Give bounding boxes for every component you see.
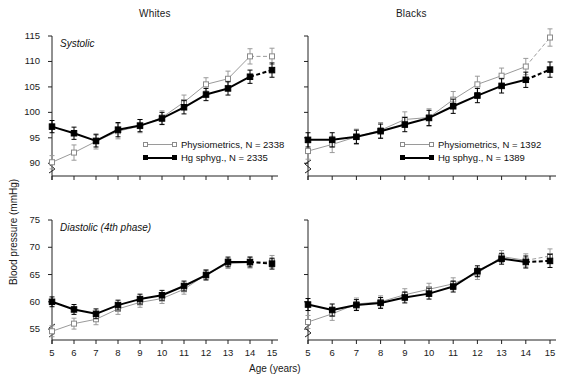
x-tick-label: 13 [220, 347, 236, 358]
data-point-filled-square [378, 300, 384, 306]
data-point-filled-square [159, 293, 165, 299]
x-tick-label: 11 [445, 347, 461, 358]
data-point-filled-square [475, 93, 481, 99]
data-point-filled-square [247, 259, 253, 265]
data-point-open-square [548, 35, 553, 40]
x-tick-label: 8 [373, 347, 389, 358]
data-point-filled-square [354, 302, 360, 308]
data-point-filled-square [269, 67, 275, 73]
data-point-filled-square [93, 138, 99, 144]
series-line-dashed [250, 70, 272, 77]
x-tick-label: 10 [154, 347, 170, 358]
data-point-filled-square [547, 67, 553, 73]
series-line-dashed [250, 262, 272, 264]
data-point-filled-square [181, 105, 187, 111]
data-point-filled-square [269, 261, 275, 267]
series-line-dashed [526, 70, 550, 80]
x-tick-label: 7 [348, 347, 364, 358]
data-point-filled-square [450, 104, 456, 110]
y-tick-label: 100 [10, 106, 40, 117]
data-point-filled-square [378, 128, 384, 134]
data-point-filled-square [305, 137, 311, 143]
x-tick-label: 12 [469, 347, 485, 358]
data-point-filled-square [115, 302, 121, 308]
x-tick-label: 13 [494, 347, 510, 358]
data-point-filled-square [137, 296, 143, 302]
x-tick-label: 9 [132, 347, 148, 358]
data-point-filled-square [402, 122, 408, 128]
data-point-filled-square [71, 130, 77, 136]
x-tick-label: 7 [88, 347, 104, 358]
data-point-open-square [248, 54, 253, 59]
data-point-open-square [204, 82, 209, 87]
data-point-open-square [72, 321, 77, 326]
data-point-filled-square [93, 311, 99, 317]
series-line-dashed [526, 261, 550, 262]
data-point-filled-square [247, 74, 253, 80]
y-tick-label: 105 [10, 81, 40, 92]
data-point-filled-square [329, 307, 335, 313]
data-point-filled-square [523, 77, 529, 83]
y-tick-label: 70 [10, 241, 40, 252]
data-point-open-square [72, 150, 77, 155]
data-point-open-square [50, 160, 55, 165]
y-tick-label: 110 [10, 55, 40, 66]
data-point-filled-square [426, 115, 432, 121]
data-point-filled-square [523, 259, 529, 265]
x-tick-label: 10 [421, 347, 437, 358]
series-line-dashed [526, 256, 550, 260]
x-tick-label: 6 [66, 347, 82, 358]
data-point-filled-square [329, 137, 335, 143]
y-tick-label: 115 [10, 30, 40, 41]
y-tick-label: 95 [10, 132, 40, 143]
x-tick-label: 14 [242, 347, 258, 358]
data-point-filled-square [354, 134, 360, 140]
data-point-filled-square [137, 123, 143, 129]
x-tick-label: 11 [176, 347, 192, 358]
data-point-filled-square [203, 92, 209, 98]
data-point-filled-square [547, 258, 553, 264]
y-tick-label: 75 [10, 214, 40, 225]
data-point-open-square [226, 76, 231, 81]
y-tick-label: 60 [10, 296, 40, 307]
data-point-open-square [475, 82, 480, 87]
x-tick-label: 8 [110, 347, 126, 358]
series-line [52, 56, 250, 162]
x-tick-label: 5 [300, 347, 316, 358]
data-point-filled-square [499, 256, 505, 262]
data-point-filled-square [225, 86, 231, 92]
data-point-open-square [523, 64, 528, 69]
data-point-open-square [499, 73, 504, 78]
x-tick-label: 14 [518, 347, 534, 358]
data-point-filled-square [115, 127, 121, 133]
data-point-open-square [306, 320, 311, 325]
data-point-filled-square [305, 302, 311, 308]
series-line [308, 259, 526, 310]
x-tick-label: 5 [44, 347, 60, 358]
series-line [308, 257, 526, 322]
x-tick-label: 9 [397, 347, 413, 358]
data-point-filled-square [71, 307, 77, 313]
x-tick-label: 12 [198, 347, 214, 358]
data-point-filled-square [159, 116, 165, 122]
data-point-filled-square [475, 269, 481, 275]
x-tick-label: 15 [264, 347, 280, 358]
data-point-open-square [270, 54, 275, 59]
data-point-filled-square [225, 259, 231, 265]
data-point-open-square [50, 329, 55, 334]
series-line-dashed [526, 38, 550, 67]
data-point-filled-square [49, 124, 55, 130]
data-point-filled-square [426, 291, 432, 297]
data-point-filled-square [402, 295, 408, 301]
x-tick-label: 15 [542, 347, 558, 358]
data-point-open-square [306, 149, 311, 154]
series-line [52, 262, 250, 314]
y-tick-label: 90 [10, 157, 40, 168]
axis-break-mark [305, 160, 311, 173]
data-point-filled-square [499, 83, 505, 89]
series-line [52, 77, 250, 141]
data-point-filled-square [450, 284, 456, 290]
series-line [308, 80, 526, 140]
data-point-filled-square [49, 299, 55, 305]
data-point-filled-square [181, 283, 187, 289]
